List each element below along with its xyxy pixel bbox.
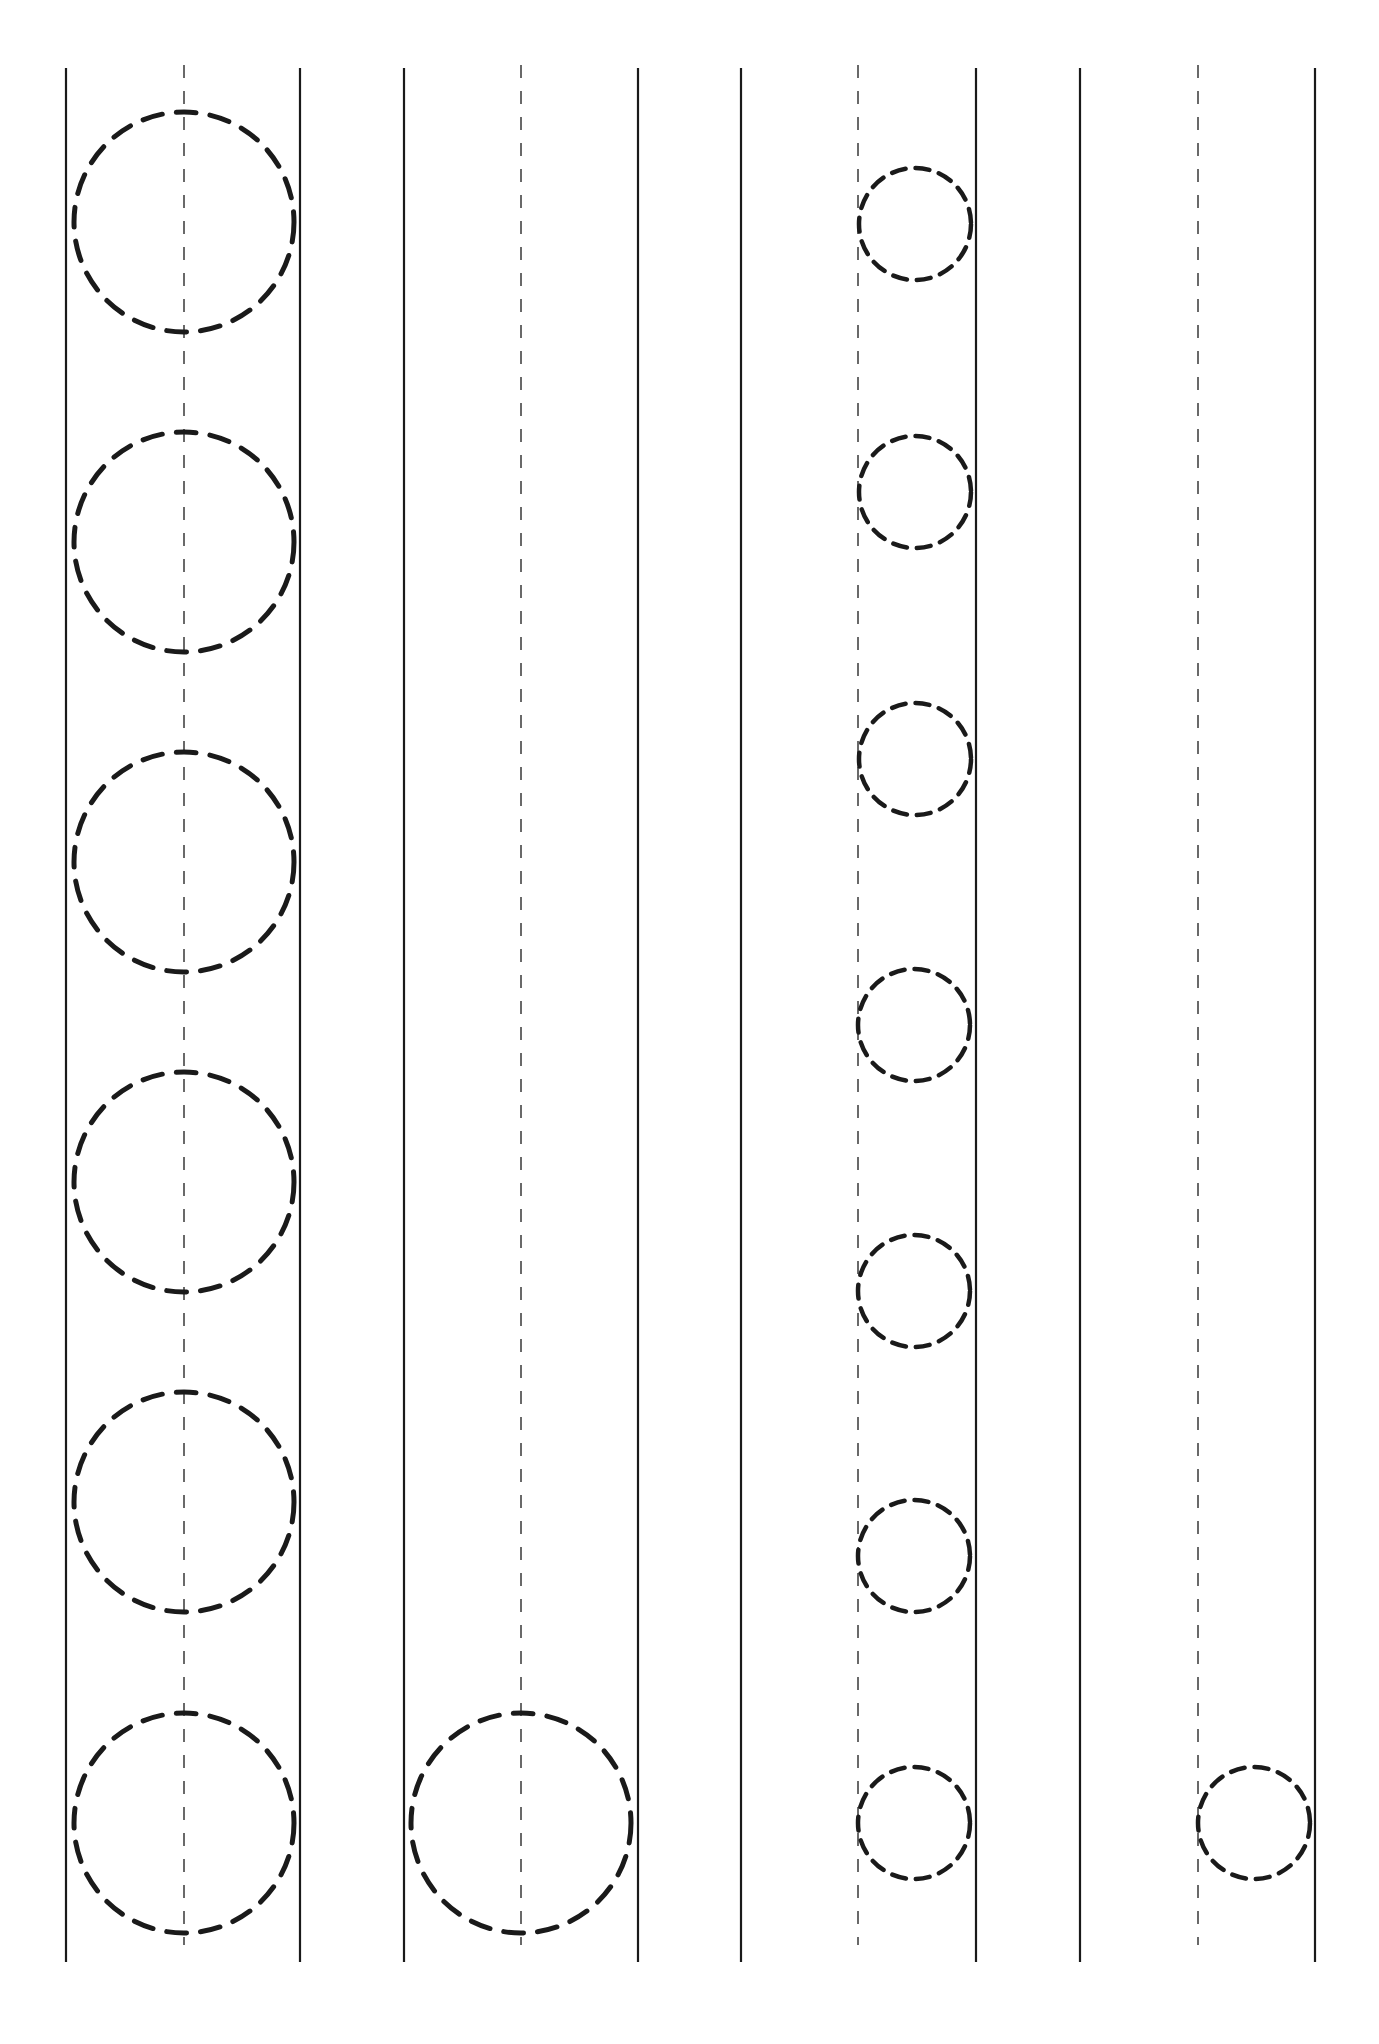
tracing-strip-3 xyxy=(741,65,976,1962)
large-dashed-circle-trace xyxy=(74,752,294,972)
small-dashed-circle-trace xyxy=(859,168,971,280)
tracing-strip-2 xyxy=(404,65,638,1962)
large-dashed-circle-trace xyxy=(411,1713,631,1933)
small-dashed-circle-trace xyxy=(1198,1767,1310,1879)
large-dashed-circle-trace xyxy=(74,1713,294,1933)
tracing-worksheet xyxy=(0,0,1379,2044)
small-dashed-circle-trace xyxy=(858,969,970,1081)
small-dashed-circle-trace xyxy=(858,1767,970,1879)
small-dashed-circle-trace xyxy=(859,436,971,548)
small-dashed-circle-trace xyxy=(858,1500,970,1612)
tracing-strip-4 xyxy=(1080,65,1315,1962)
small-dashed-circle-trace xyxy=(859,703,971,815)
small-dashed-circle-trace xyxy=(858,1235,970,1347)
tracing-strip-1 xyxy=(66,65,300,1962)
